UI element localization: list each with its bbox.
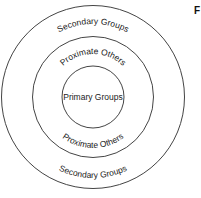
middle-bottom-label: Proximate Others <box>61 131 125 150</box>
middle-top-label: Proximate Others <box>58 46 129 68</box>
outer-top-label: Secondary Groups <box>55 16 130 34</box>
outer-bottom-label: Secondary Groups <box>58 163 128 180</box>
inner-label: Primary Groups <box>63 92 123 102</box>
corner-letter: F <box>194 5 200 16</box>
concentric-circles-diagram: Secondary Groups Secondary Groups Proxim… <box>0 0 201 198</box>
